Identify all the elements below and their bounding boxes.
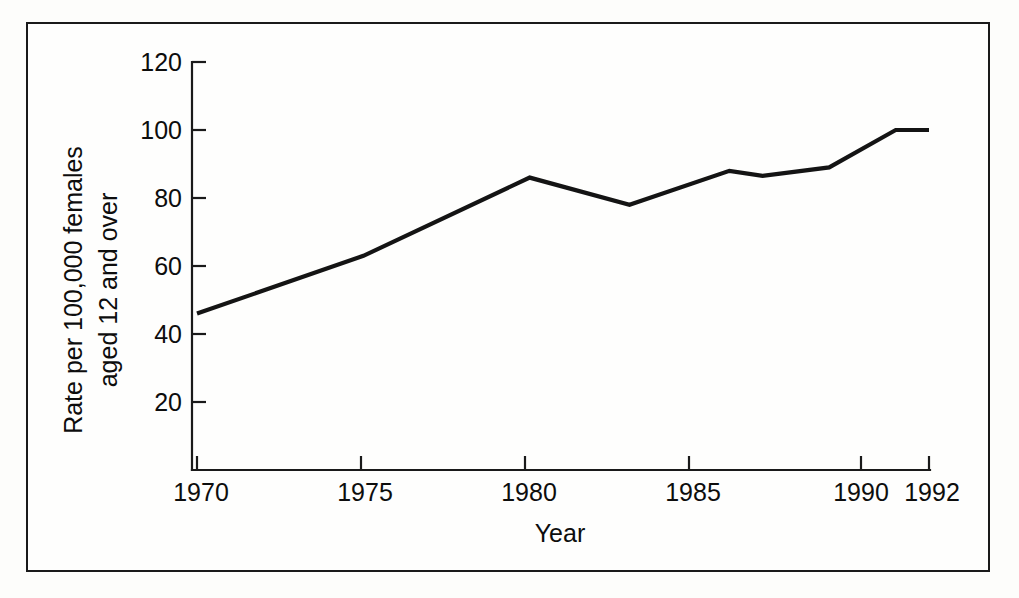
- x-tick-label-1970: 1970: [173, 478, 229, 506]
- y-tick-label-40: 40: [154, 320, 182, 348]
- y-tick-label-100: 100: [140, 116, 182, 144]
- y-tick-label-80: 80: [154, 184, 182, 212]
- x-tick-label-1985: 1985: [665, 478, 721, 506]
- y-tick-label-120: 120: [140, 48, 182, 76]
- y-tick-label-20: 20: [154, 388, 182, 416]
- x-axis-title: Year: [535, 519, 586, 547]
- chart-area: 120 100 80 60 40 20 1970 1975 1980 1985 …: [0, 0, 1019, 598]
- x-tick-marks: [197, 456, 929, 470]
- y-tick-label-60: 60: [154, 252, 182, 280]
- y-axis-title-line1: Rate per 100,000 females: [59, 146, 87, 434]
- y-tick-marks: [192, 62, 206, 402]
- x-tick-label-1980: 1980: [501, 478, 557, 506]
- x-tick-label-1975: 1975: [337, 478, 393, 506]
- x-tick-label-1990: 1990: [833, 478, 889, 506]
- y-axis-title-line2: aged 12 and over: [94, 193, 122, 388]
- figure-page: 120 100 80 60 40 20 1970 1975 1980 1985 …: [0, 0, 1019, 598]
- line-chart: 120 100 80 60 40 20 1970 1975 1980 1985 …: [0, 0, 1019, 598]
- x-tick-label-1992: 1992: [904, 478, 960, 506]
- data-series-line: [197, 130, 929, 314]
